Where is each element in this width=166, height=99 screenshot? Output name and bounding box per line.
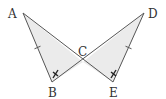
triangle-ABC (23, 13, 83, 82)
triangle-DEC (83, 13, 144, 82)
label-D: D (148, 7, 158, 21)
label-B: B (48, 86, 57, 99)
label-E: E (109, 86, 118, 99)
congruent-triangles-diagram: A B C D E (0, 0, 166, 99)
label-C: C (78, 45, 87, 59)
label-A: A (7, 7, 17, 21)
